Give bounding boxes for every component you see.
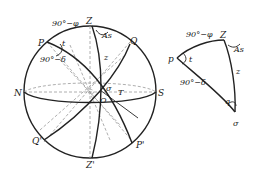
label-equator-q-prime: Q' — [32, 136, 42, 146]
label-equator-q: Q — [130, 36, 138, 46]
label-pole-south: P' — [135, 140, 145, 150]
triangle-label-star: σ — [233, 119, 239, 128]
label-pole: P — [37, 38, 45, 48]
triangle-label-zenith-distance: z — [235, 67, 241, 76]
triangle-label-azimuth: As — [233, 45, 244, 54]
label-codeclination: 90°−δ — [40, 55, 66, 64]
triangle-label-parallactic: q — [225, 97, 230, 106]
label-zenith-distance: z — [103, 53, 109, 62]
triangle-label-pole: p — [168, 54, 174, 64]
label-south: S — [158, 88, 164, 98]
triangle-label-codeclination: 90°−δ — [180, 78, 206, 87]
label-colatitude: 90°−φ — [52, 19, 79, 28]
label-star: σ — [106, 84, 112, 93]
triangle-label-hour-angle: t — [189, 55, 193, 64]
label-center: O — [100, 96, 107, 105]
triangle-label-colatitude: 90°−φ — [186, 30, 213, 39]
spherical-triangle — [177, 40, 240, 112]
label-hour-angle: t — [62, 39, 66, 48]
label-north: N — [13, 88, 23, 98]
label-nadir: Z' — [85, 160, 95, 170]
label-point-t: T — [118, 88, 124, 97]
celestial-sphere-diagram: Z Z' P P' Q Q' N S O σ T 90°−φ 90°−δ t A… — [0, 0, 254, 183]
triangle-label-zenith: Z — [219, 30, 227, 40]
label-azimuth: As — [101, 31, 112, 40]
label-zenith: Z — [85, 16, 93, 26]
